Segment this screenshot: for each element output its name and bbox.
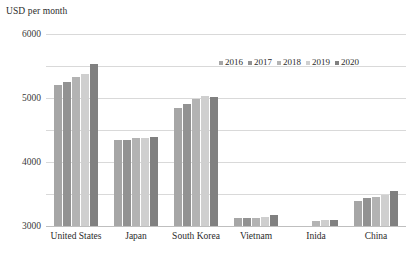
bar[interactable] bbox=[390, 191, 398, 226]
bar[interactable] bbox=[114, 140, 122, 226]
bar-group: Vietnam bbox=[226, 34, 286, 226]
bar[interactable] bbox=[354, 201, 362, 226]
y-axis-tick-label: 4000 bbox=[0, 157, 41, 167]
bar-set bbox=[174, 34, 218, 226]
y-axis-title: USD per month bbox=[6, 6, 67, 16]
bar[interactable] bbox=[330, 220, 338, 226]
bar[interactable] bbox=[72, 77, 80, 226]
bar-set bbox=[54, 34, 98, 226]
bar[interactable] bbox=[234, 218, 242, 226]
y-axis-tick-label: 5000 bbox=[0, 93, 41, 103]
bar-group: Japan bbox=[106, 34, 166, 226]
bar[interactable] bbox=[174, 108, 182, 226]
x-axis-category-label: United States bbox=[51, 231, 102, 241]
plot-area: 0100020003000400050006000 United StatesJ… bbox=[46, 34, 406, 226]
bar-chart: USD per month 20162017201820192020 01000… bbox=[0, 0, 413, 254]
bar[interactable] bbox=[81, 74, 89, 226]
bar-group: United States bbox=[46, 34, 106, 226]
bar[interactable] bbox=[54, 85, 62, 226]
x-axis-category-label: Inida bbox=[306, 231, 326, 241]
bar[interactable] bbox=[363, 198, 371, 226]
bar[interactable] bbox=[150, 137, 158, 226]
bar-set bbox=[294, 34, 338, 226]
bar[interactable] bbox=[210, 97, 218, 226]
bar-group: South Korea bbox=[166, 34, 226, 226]
bar-set bbox=[354, 34, 398, 226]
bar[interactable] bbox=[132, 138, 140, 226]
x-axis-category-label: Vietnam bbox=[240, 231, 272, 241]
bar-groups: United StatesJapanSouth KoreaVietnamInid… bbox=[46, 34, 406, 226]
bar[interactable] bbox=[381, 195, 389, 226]
bar-set bbox=[114, 34, 158, 226]
bar-group: Inida bbox=[286, 34, 346, 226]
bar[interactable] bbox=[90, 64, 98, 226]
bar[interactable] bbox=[183, 104, 191, 226]
bar-group: China bbox=[346, 34, 406, 226]
bar-set bbox=[234, 34, 278, 226]
x-axis-category-label: Japan bbox=[125, 231, 147, 241]
x-axis-category-label: South Korea bbox=[172, 231, 220, 241]
y-axis-tick-label: 6000 bbox=[0, 29, 41, 39]
x-axis-category-label: China bbox=[365, 231, 388, 241]
bar[interactable] bbox=[192, 99, 200, 226]
bar[interactable] bbox=[321, 220, 329, 226]
bar[interactable] bbox=[261, 217, 269, 226]
bar[interactable] bbox=[201, 96, 209, 226]
axis-baseline: 0 bbox=[46, 226, 406, 227]
bar[interactable] bbox=[123, 140, 131, 226]
bar[interactable] bbox=[63, 82, 71, 226]
bar[interactable] bbox=[141, 138, 149, 226]
y-axis-tick-label: 3000 bbox=[0, 221, 41, 231]
bar[interactable] bbox=[270, 215, 278, 226]
bar[interactable] bbox=[243, 218, 251, 226]
bar[interactable] bbox=[372, 197, 380, 226]
bar[interactable] bbox=[252, 218, 260, 226]
bar[interactable] bbox=[312, 221, 320, 226]
